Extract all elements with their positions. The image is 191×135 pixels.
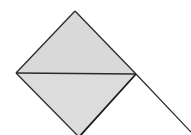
- extension-line: [136, 74, 191, 132]
- lower-triangle: [16, 73, 136, 135]
- diagram-canvas: [0, 0, 191, 135]
- upper-triangle: [16, 11, 136, 74]
- diagonal-horizontal: [16, 73, 136, 74]
